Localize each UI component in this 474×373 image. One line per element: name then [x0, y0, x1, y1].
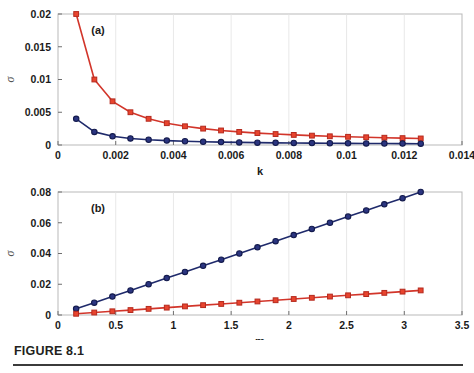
x-tick-label: 0.002 [103, 149, 129, 161]
marker-red-square-series [364, 292, 369, 297]
marker-blue-circle-series [164, 275, 169, 280]
marker-blue-circle-series [309, 226, 314, 231]
marker-red-square-series [201, 126, 206, 131]
marker-blue-circle-series [418, 189, 423, 194]
marker-red-square-series [110, 99, 115, 104]
marker-red-square-series [273, 298, 278, 303]
marker-red-square-series [382, 135, 387, 140]
x-tick-label: 0.012 [391, 149, 417, 161]
marker-blue-circle-series [418, 141, 423, 146]
chart-a-svg: 00.0050.010.0150.0200.0020.0040.0060.008… [0, 0, 474, 186]
marker-blue-circle-series [128, 288, 133, 293]
marker-blue-circle-series [291, 140, 296, 145]
marker-blue-circle-series [237, 140, 242, 145]
marker-blue-circle-series [73, 116, 78, 121]
x-tick-label: 0.006 [218, 149, 244, 161]
marker-blue-circle-series [128, 136, 133, 141]
marker-red-square-series [128, 110, 133, 115]
marker-blue-circle-series [255, 140, 260, 145]
plot-area-frame [58, 14, 462, 145]
figure-8-1: 00.0050.010.0150.0200.0020.0040.0060.008… [0, 0, 474, 373]
marker-red-square-series [110, 309, 115, 314]
marker-blue-circle-series [200, 263, 205, 268]
marker-red-square-series [92, 77, 97, 82]
marker-red-square-series [219, 302, 224, 307]
marker-blue-circle-series [218, 139, 223, 144]
marker-blue-circle-series [92, 129, 97, 134]
marker-blue-circle-series [255, 245, 260, 250]
marker-blue-circle-series [382, 202, 387, 207]
x-tick-label: 0.004 [160, 149, 186, 161]
marker-red-square-series [418, 288, 423, 293]
marker-blue-circle-series [273, 239, 278, 244]
marker-blue-circle-series [309, 140, 314, 145]
marker-red-square-series [237, 130, 242, 135]
x-tick-label: 0.5 [108, 319, 123, 331]
marker-red-square-series [183, 124, 188, 129]
y-axis-title: σ [3, 249, 17, 256]
marker-red-square-series [255, 299, 260, 304]
marker-red-square-series [400, 289, 405, 294]
panel-label: (a) [91, 24, 105, 36]
marker-blue-circle-series [327, 220, 332, 225]
figure-caption-block: FIGURE 8.1 [0, 338, 474, 373]
x-tick-label: 0.008 [276, 149, 302, 161]
marker-red-square-series [146, 306, 151, 311]
marker-blue-circle-series [110, 294, 115, 299]
x-tick-label: 3.5 [455, 319, 470, 331]
figure-caption: FIGURE 8.1 [14, 344, 84, 358]
marker-blue-circle-series [291, 232, 296, 237]
x-tick-label: 0.01 [336, 149, 357, 161]
marker-red-square-series [400, 136, 405, 141]
marker-blue-circle-series [273, 140, 278, 145]
marker-blue-circle-series [327, 141, 332, 146]
x-tick-label: 3 [401, 319, 407, 331]
marker-blue-circle-series [237, 251, 242, 256]
y-tick-label: 0.02 [31, 8, 52, 20]
x-tick-label: 0 [55, 149, 61, 161]
marker-red-square-series [219, 128, 224, 133]
marker-blue-circle-series [345, 214, 350, 219]
marker-red-square-series [327, 134, 332, 139]
marker-red-square-series [382, 290, 387, 295]
marker-red-square-series [146, 116, 151, 121]
marker-red-square-series [201, 303, 206, 308]
marker-red-square-series [346, 134, 351, 139]
marker-red-square-series [273, 132, 278, 137]
y-tick-label: 0.02 [31, 278, 52, 290]
marker-blue-circle-series [146, 282, 151, 287]
marker-blue-circle-series [164, 138, 169, 143]
marker-red-square-series [164, 305, 169, 310]
marker-red-square-series [291, 133, 296, 138]
marker-red-square-series [74, 12, 79, 17]
marker-red-square-series [164, 121, 169, 126]
x-tick-label: 0 [55, 319, 61, 331]
marker-blue-circle-series [400, 141, 405, 146]
marker-blue-circle-series [400, 195, 405, 200]
marker-red-square-series [255, 131, 260, 136]
marker-blue-circle-series [92, 300, 97, 305]
marker-red-square-series [418, 136, 423, 141]
marker-red-square-series [291, 297, 296, 302]
marker-red-square-series [74, 311, 79, 316]
plot-area-frame [58, 192, 462, 315]
marker-red-square-series [237, 300, 242, 305]
y-tick-label: 0.01 [31, 73, 52, 85]
marker-blue-circle-series [382, 141, 387, 146]
marker-blue-circle-series [146, 137, 151, 142]
marker-blue-circle-series [363, 208, 368, 213]
marker-blue-circle-series [73, 306, 78, 311]
x-tick-label: 1.5 [224, 319, 239, 331]
marker-red-square-series [128, 308, 133, 313]
marker-blue-circle-series [200, 139, 205, 144]
chart-panel-a: 00.0050.010.0150.0200.0020.0040.0060.008… [0, 0, 474, 186]
x-axis-title: k [257, 165, 264, 177]
marker-blue-circle-series [182, 269, 187, 274]
marker-red-square-series [328, 294, 333, 299]
y-tick-label: 0.04 [31, 247, 52, 259]
marker-red-square-series [92, 310, 97, 315]
marker-red-square-series [309, 295, 314, 300]
x-tick-label: 2 [286, 319, 292, 331]
marker-blue-circle-series [345, 141, 350, 146]
caption-divider [13, 364, 463, 366]
